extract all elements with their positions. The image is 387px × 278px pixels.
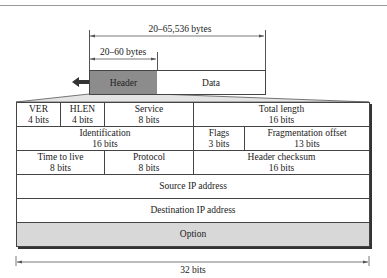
table-row: Time to live8 bits Protocol8 bits Header… <box>17 151 370 175</box>
field-destination-ip: Destination IP address <box>17 199 370 223</box>
total-size-label: 20–65,536 bytes <box>140 24 220 34</box>
table-row: Option <box>17 223 370 247</box>
datagram-data-box: Data <box>157 70 266 95</box>
field-protocol: Protocol8 bits <box>105 151 194 175</box>
field-header-checksum: Header checksum16 bits <box>194 151 370 175</box>
width-label: 32 bits <box>163 265 223 275</box>
table-row: Source IP address <box>17 175 370 199</box>
field-ver: VER4 bits <box>17 103 61 127</box>
field-identification: Identification16 bits <box>17 127 194 151</box>
ip-header-format-table: VER4 bits HLEN4 bits Service8 bits Total… <box>16 102 370 247</box>
field-flags: Flags3 bits <box>194 127 245 151</box>
field-option: Option <box>17 223 370 247</box>
table-row: Identification16 bits Flags3 bits Fragme… <box>17 127 370 151</box>
field-hlen: HLEN4 bits <box>61 103 105 127</box>
field-total-length: Total length16 bits <box>194 103 370 127</box>
data-label: Data <box>202 78 220 88</box>
field-source-ip: Source IP address <box>17 175 370 199</box>
header-label: Header <box>110 78 137 88</box>
field-fragmentation-offset: Fragmentation offset13 bits <box>245 127 370 151</box>
table-row: Destination IP address <box>17 199 370 223</box>
header-size-label: 20–60 bytes <box>92 47 154 57</box>
datagram-header-box: Header <box>89 70 158 95</box>
field-service: Service8 bits <box>105 103 194 127</box>
field-time-to-live: Time to live8 bits <box>17 151 105 175</box>
table-row: VER4 bits HLEN4 bits Service8 bits Total… <box>17 103 370 127</box>
